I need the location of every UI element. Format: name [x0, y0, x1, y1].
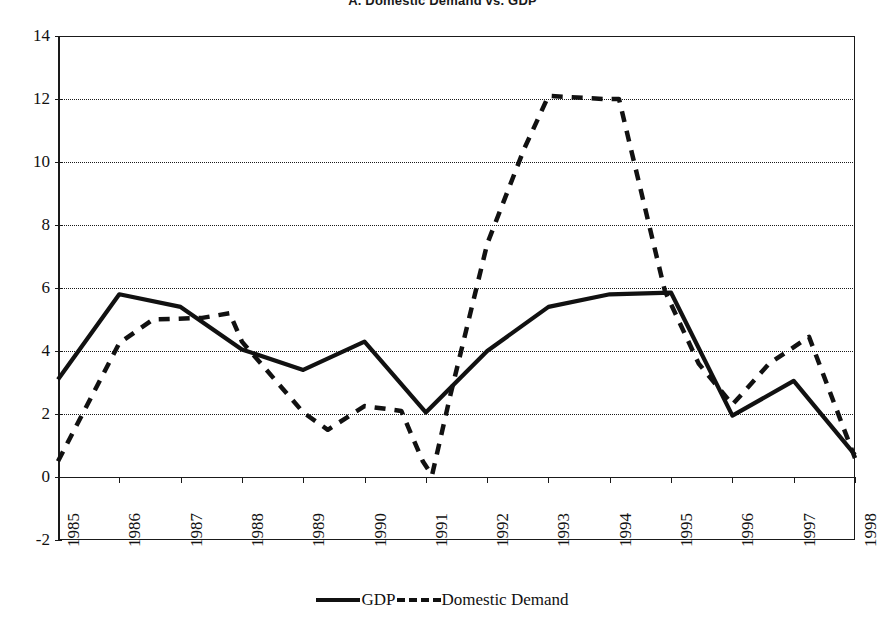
x-axis-tick [548, 477, 549, 483]
y-axis-tick [55, 288, 62, 289]
x-axis-tick-label: 1986 [126, 513, 143, 547]
y-axis-tick [55, 162, 62, 163]
x-axis-tick-label: 1992 [494, 513, 511, 547]
y-axis-tick [55, 351, 62, 352]
x-axis-tick-label: 1998 [862, 513, 879, 547]
chart-title: A. Domestic Demand vs. GDP [0, 0, 885, 6]
legend-item-domestic-demand: Domestic Demand [396, 590, 569, 609]
y-axis-tick-label: 12 [33, 90, 50, 107]
x-axis-tick-label: 1985 [65, 513, 82, 547]
y-axis-tick [55, 414, 62, 415]
x-axis-tick-label: 1987 [188, 513, 205, 547]
x-axis-tick [671, 477, 672, 483]
y-axis-tick-label: 14 [33, 27, 50, 44]
x-axis-tick [732, 477, 733, 483]
x-axis-tick-label: 1997 [801, 513, 818, 547]
y-axis-tick-label: 10 [33, 153, 50, 170]
gridline [58, 288, 855, 289]
x-axis-tick [794, 477, 795, 483]
y-axis-tick [55, 99, 62, 100]
y-axis-tick-label: -2 [36, 531, 50, 548]
y-axis-tick [55, 36, 62, 37]
gridline [58, 351, 855, 352]
x-axis-tick [365, 477, 366, 483]
y-axis-tick-label: 8 [42, 216, 51, 233]
legend-swatch-solid-icon [316, 598, 360, 602]
x-axis-tick-label: 1995 [678, 513, 695, 547]
chart-legend: GDPDomestic Demand [0, 589, 885, 609]
x-axis-tick-label: 1988 [249, 513, 266, 547]
x-axis-tick [58, 477, 59, 483]
y-axis-tick-label: 0 [42, 468, 51, 485]
x-axis-tick-label: 1991 [433, 513, 450, 547]
y-axis-tick [55, 225, 62, 226]
gridline [58, 162, 855, 163]
y-axis-tick [55, 540, 62, 541]
x-axis-tick [242, 477, 243, 483]
gridline [58, 414, 855, 415]
x-axis-tick-label: 1993 [555, 513, 572, 547]
x-axis-tick [855, 477, 856, 483]
zero-line [58, 477, 855, 478]
y-axis-tick-label: 2 [42, 405, 51, 422]
gridline [58, 99, 855, 100]
legend-label-domestic-demand: Domestic Demand [442, 591, 569, 609]
x-axis-tick-label: 1996 [739, 513, 756, 547]
x-axis-tick [181, 477, 182, 483]
x-axis-tick [487, 477, 488, 483]
legend-label-gdp: GDP [361, 591, 395, 609]
x-axis-tick-label: 1994 [617, 513, 634, 547]
legend-swatch-dashed-icon [397, 598, 441, 602]
y-axis-tick-label: 6 [42, 279, 51, 296]
y-axis-tick-label: 4 [42, 342, 51, 359]
x-axis-tick [426, 477, 427, 483]
chart-container: A. Domestic Demand vs. GDP -202468101214… [0, 0, 885, 627]
x-axis-tick [119, 477, 120, 483]
x-axis-tick [610, 477, 611, 483]
legend-item-gdp: GDP [316, 590, 395, 609]
gridline [58, 225, 855, 226]
x-axis-tick-label: 1989 [310, 513, 327, 547]
x-axis-tick [303, 477, 304, 483]
x-axis-tick-label: 1990 [372, 513, 389, 547]
